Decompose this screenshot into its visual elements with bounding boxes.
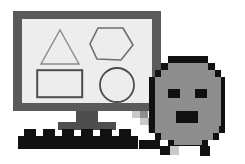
trail-pixel (132, 111, 140, 118)
keyboard-body (18, 136, 138, 149)
illustration-canvas (0, 0, 245, 164)
monitor-screen (22, 19, 152, 103)
blob-right-eye (195, 89, 207, 98)
blob-body (155, 63, 221, 145)
blob-left-eye (168, 89, 180, 98)
desktop-monitor (13, 11, 161, 111)
trail-pixel (140, 118, 148, 125)
shape-triangle (38, 27, 82, 71)
pixel-blob-character[interactable] (148, 56, 232, 160)
blob-mouth (176, 111, 198, 123)
trail-pixel (140, 111, 148, 118)
shape-rectangle (36, 69, 84, 103)
shape-hexagon (88, 25, 136, 69)
pixel-blob-svg (148, 56, 232, 160)
shape-circle (98, 66, 136, 108)
